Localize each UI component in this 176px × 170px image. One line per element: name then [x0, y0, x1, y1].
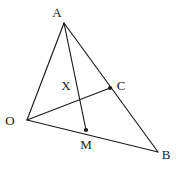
point-label-o: O	[5, 114, 14, 127]
point-label-c: C	[117, 79, 126, 92]
segment-oa	[27, 23, 64, 120]
point-dot-m	[84, 128, 88, 132]
segment-oc	[27, 88, 110, 120]
point-dot-c	[108, 86, 112, 90]
point-label-x: X	[61, 79, 70, 92]
point-label-b: B	[162, 148, 171, 161]
point-label-m: M	[80, 138, 92, 151]
point-label-a: A	[52, 6, 61, 19]
segment-group	[27, 23, 158, 152]
geometry-figure: AOBCMX	[0, 0, 176, 170]
